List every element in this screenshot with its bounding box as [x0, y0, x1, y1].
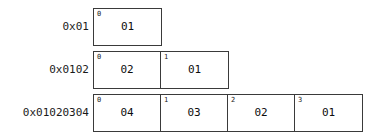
byte-cell-value: 02: [94, 63, 160, 77]
byte-cell: 301: [295, 95, 362, 131]
byte-cell-index: 3: [298, 96, 302, 105]
row-label-hex-value: 0x01020304: [23, 94, 93, 132]
byte-cell: 001: [94, 9, 161, 45]
byte-cell: 002: [94, 52, 161, 88]
byte-cell-index: 1: [164, 96, 168, 105]
row-label-hex-value: 0x0102: [49, 51, 93, 89]
byte-row: 0x01001: [93, 8, 162, 46]
byte-cell-value: 03: [161, 106, 227, 120]
byte-cell-index: 0: [97, 53, 101, 62]
byte-cell: 004: [94, 95, 161, 131]
byte-order-diagram: 0x010010x01020021010x0102030400410320230…: [0, 0, 383, 137]
byte-cell-value: 01: [94, 20, 161, 34]
byte-cell-group: 004103202301: [93, 94, 363, 132]
byte-cell-value: 02: [228, 106, 294, 120]
byte-cell: 101: [161, 52, 228, 88]
byte-cell-index: 0: [97, 10, 101, 19]
byte-cell-value: 04: [94, 106, 160, 120]
byte-cell-index: 2: [231, 96, 235, 105]
byte-cell: 202: [228, 95, 295, 131]
row-label-hex-value: 0x01: [63, 8, 94, 46]
byte-cell-value: 01: [295, 106, 362, 120]
byte-cell: 103: [161, 95, 228, 131]
byte-cell-index: 1: [164, 53, 168, 62]
byte-cell-index: 0: [97, 96, 101, 105]
byte-cell-value: 01: [161, 63, 228, 77]
byte-cell-group: 001: [93, 8, 162, 46]
byte-row: 0x0102002101: [93, 51, 229, 89]
byte-row: 0x01020304004103202301: [93, 94, 363, 132]
byte-cell-group: 002101: [93, 51, 229, 89]
